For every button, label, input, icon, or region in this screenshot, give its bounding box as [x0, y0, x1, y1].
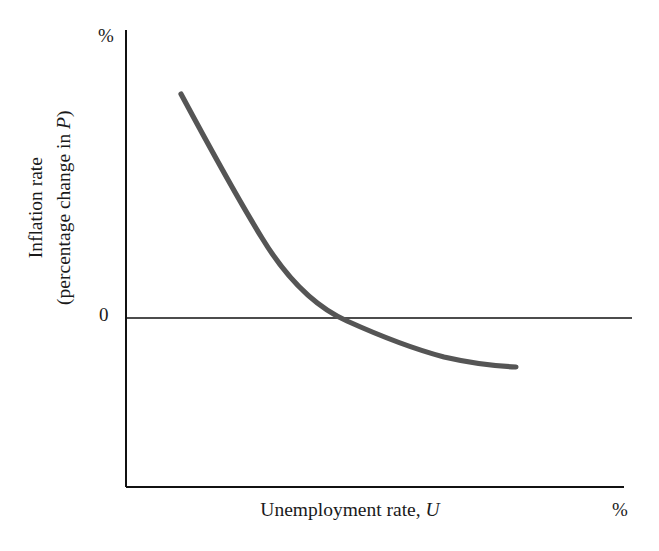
y-axis-title-variable-p: P [53, 117, 74, 129]
x-axis-title-prefix: Unemployment rate, [260, 499, 425, 520]
y-axis-title-line-2-suffix: ) [53, 111, 74, 118]
chart-plot-area [0, 0, 659, 551]
y-axis-title-line-2-prefix: (percentage change in [53, 129, 74, 305]
x-axis-title: Unemployment rate, U [180, 500, 520, 520]
y-axis-title-line-1: Inflation rate [22, 93, 50, 323]
x-axis-title-variable-u: U [426, 499, 440, 520]
y-axis-title: Inflation rate (percentage change in P) [22, 93, 77, 323]
y-axis-tick-zero: 0 [99, 305, 109, 324]
phillips-curve-path [181, 94, 516, 367]
x-axis-unit-label: % [612, 500, 628, 519]
y-axis-title-line-2: (percentage change in P) [50, 93, 78, 323]
phillips-curve-figure: % 0 Inflation rate (percentage change in… [0, 0, 659, 551]
y-axis-unit-label: % [98, 26, 114, 45]
